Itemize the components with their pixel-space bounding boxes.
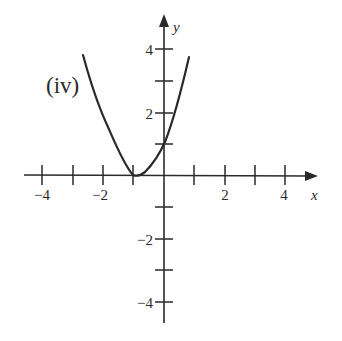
y-axis-label: y [171,19,180,35]
parabola-curve [83,55,189,176]
figure-label: (iv) [46,73,79,98]
graph: −4 −2 2 4 4 2 −2 −4 x y (iv) [0,0,342,341]
x-axis-arrow-icon [305,171,318,181]
y-tick-label: 2 [146,106,154,122]
x-tick-label: −2 [92,187,108,203]
y-axis-arrow-icon [159,14,169,27]
y-tick-label: −4 [137,295,153,311]
y-tick-label: 4 [146,42,154,58]
x-axis-label: x [310,187,318,203]
x-tick-label: 4 [280,187,288,203]
x-tick-label: 2 [221,187,229,203]
x-axis [24,175,312,176]
x-tick-label: −4 [34,187,50,203]
y-tick-label: −2 [137,232,153,248]
